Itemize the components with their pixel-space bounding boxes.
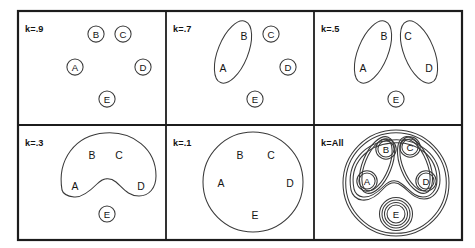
node-label-c: C [404,31,412,42]
node-label-c: C [115,150,123,161]
node-label-c: C [268,29,275,40]
overlay-node-group-b: B [376,139,396,159]
clustering-figure: k=.9 B C A D E k=.7 [0,0,475,248]
node-label-a: A [360,63,367,74]
node-label-e: E [252,210,259,221]
panel-k-all: k=All B C [321,130,449,236]
node-label-d: D [285,62,292,73]
panel-label-kall: k=All [321,138,344,148]
node-group-a: A [67,59,83,75]
node-group-b: B [88,26,104,42]
overlay-contour-cd-1 [390,132,439,198]
cluster-contour-ab [347,16,400,88]
overlay-node-group-d: D [416,171,436,191]
overlay-node-group-e: E [380,198,413,231]
panel-label-k01: k=.1 [173,138,192,148]
panel-label-k05: k=.5 [321,24,340,34]
panel-k-01: k=.1 B C A D E [173,132,303,232]
node-label-b: B [237,150,244,161]
panel-k-05: k=.5 B A C D E [321,16,445,107]
node-label-c: C [120,29,127,40]
node-label-e: E [104,94,110,105]
node-label-d: D [140,62,147,73]
panel-k-03: k=.3 B C A D E [25,133,156,222]
figure-grid [18,11,462,240]
node-label-e: E [104,209,110,220]
node-label-a: A [218,178,225,189]
node-group-e: E [388,91,404,107]
panel-label-k03: k=.3 [25,138,44,148]
node-label-e: E [393,94,399,105]
node-label-b: B [241,31,248,42]
node-label-d: D [286,178,294,189]
node-label-e: E [393,209,399,220]
node-label-b: B [381,31,388,42]
figure-svg: k=.9 B C A D E k=.7 [0,0,475,248]
node-label-d: D [425,63,433,74]
node-group-d: D [135,59,151,75]
node-label-b: B [383,144,389,155]
cluster-contour-ab [207,16,260,88]
node-group-c: C [263,26,279,42]
node-label-a: A [72,62,79,73]
node-label-a: A [364,176,371,187]
node-label-c: C [267,150,275,161]
node-label-a: A [220,63,227,74]
cluster-contour-cd [393,16,446,88]
node-label-e: E [252,94,258,105]
node-group-e: E [99,206,115,222]
node-group-e: E [247,91,263,107]
panel-k-07: k=.7 B A C D E [173,16,296,107]
node-group-e: E [99,91,115,107]
node-group-c: C [115,26,131,42]
panel-k-09: k=.9 B C A D E [25,24,151,107]
node-label-d: D [423,176,430,187]
node-label-d: D [137,181,145,192]
node-group-d: D [280,59,296,75]
node-label-b: B [89,150,96,161]
node-label-a: A [72,181,79,192]
node-label-c: C [407,142,414,153]
panel-label-k09: k=.9 [25,24,44,34]
panel-label-k07: k=.7 [173,24,192,34]
node-label-b: B [93,29,99,40]
